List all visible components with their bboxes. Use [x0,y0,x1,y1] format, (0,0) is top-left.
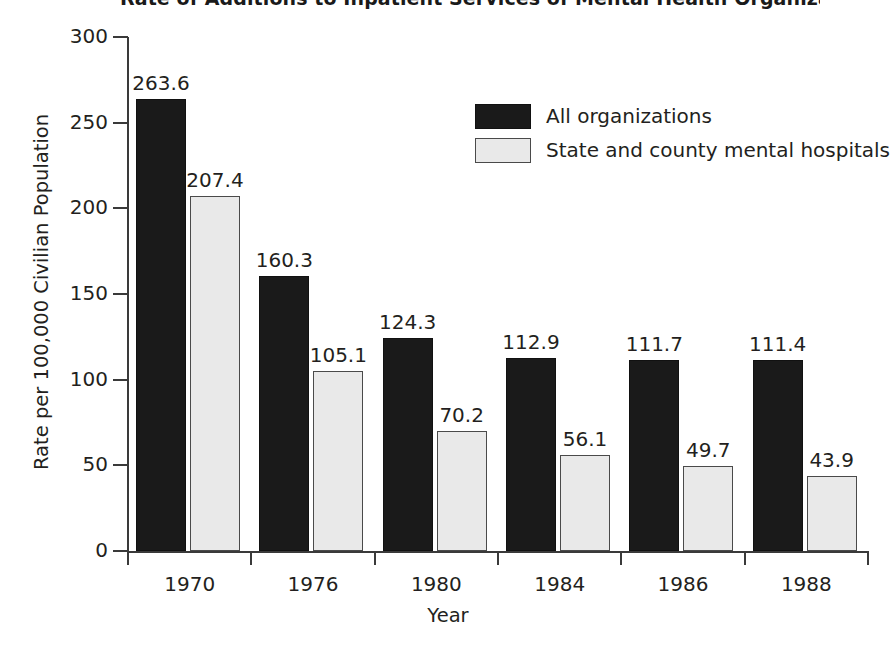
bar-value-label: 124.3 [379,310,436,334]
bar-1986-series-0 [629,360,679,551]
bar-value-label: 105.1 [310,343,367,367]
y-axis-tick-label: 0 [8,538,108,562]
x-axis-tick-label: 1984 [500,572,620,596]
bar-value-label: 160.3 [256,248,313,272]
bar-value-label: 207.4 [186,168,243,192]
legend-item[interactable]: State and county mental hospitals [475,135,890,165]
bar-1970-series-0 [136,99,186,551]
bar-value-label: 112.9 [502,330,559,354]
bar-1976-series-1 [313,371,363,551]
x-axis-tick-label: 1970 [130,572,250,596]
y-axis-tick-label: 100 [8,367,108,391]
x-axis-tick-label: 1988 [746,572,866,596]
y-axis-tick-label: 200 [8,195,108,219]
bar-value-label: 111.4 [749,332,806,356]
legend-swatch-icon [475,104,531,129]
bar-1984-series-0 [506,358,556,551]
legend-item[interactable]: All organizations [475,101,890,131]
bar-value-label: 263.6 [132,71,189,95]
x-axis-title: Year [0,604,896,627]
bar-1988-series-1 [807,476,857,551]
y-axis-tick [113,122,128,124]
chart-title: Rate of Additions to Inpatient Services … [120,0,820,9]
bar-value-label: 70.2 [439,403,484,427]
bar-1980-series-1 [437,431,487,551]
bar-value-label: 49.7 [686,438,731,462]
bar-1984-series-1 [560,455,610,551]
y-axis-tick [113,464,128,466]
bar-1988-series-0 [753,360,803,551]
bar-1980-series-0 [383,338,433,551]
x-axis-tick-label: 1976 [253,572,373,596]
y-axis-tick-label: 300 [8,24,108,48]
x-axis-tick [374,551,376,565]
legend-label: All organizations [546,104,712,128]
y-axis-tick-label: 150 [8,281,108,305]
bar-value-label: 56.1 [563,427,608,451]
bar-value-label: 111.7 [626,332,683,356]
y-axis-tick [113,207,128,209]
bar-1986-series-1 [683,466,733,551]
bar-1970-series-1 [190,196,240,551]
x-axis-tick [620,551,622,565]
y-axis-title: Rate per 100,000 Civilian Population [30,114,53,470]
y-axis-tick [113,36,128,38]
bar-chart: Rate of Additions to Inpatient Services … [0,0,896,653]
x-axis-tick [127,551,129,565]
y-axis-tick [113,293,128,295]
x-axis-tick [867,551,869,565]
bar-value-label: 43.9 [809,448,854,472]
chart-legend: All organizationsState and county mental… [475,101,890,169]
x-axis-tick [250,551,252,565]
x-axis-tick-label: 1980 [376,572,496,596]
x-axis-tick [497,551,499,565]
y-axis-tick-label: 50 [8,452,108,476]
legend-swatch-icon [475,138,531,163]
x-axis-tick [744,551,746,565]
y-axis-tick [113,550,128,552]
y-axis-tick-label: 250 [8,110,108,134]
legend-label: State and county mental hospitals [546,138,890,162]
bar-1976-series-0 [259,276,309,551]
x-axis-tick-label: 1986 [623,572,743,596]
y-axis-tick [113,379,128,381]
